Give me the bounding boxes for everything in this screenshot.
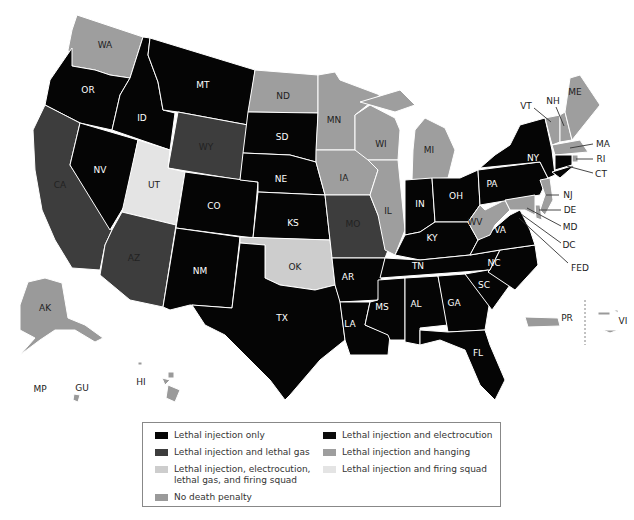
- label-WA: WA: [98, 40, 113, 50]
- label-MA: MA: [596, 139, 611, 149]
- label-TX: TX: [275, 313, 288, 323]
- label-AR: AR: [342, 272, 354, 282]
- legend-label: Lethal injection and firing squad: [342, 464, 487, 475]
- label-LA: LA: [344, 319, 356, 329]
- label-OK: OK: [289, 262, 303, 272]
- legend-item-multiple-methods: Lethal injection, electrocution, lethal …: [155, 464, 310, 486]
- label-VT: VT: [520, 101, 532, 111]
- label-NM: NM: [193, 266, 208, 276]
- label-CA: CA: [54, 180, 67, 190]
- legend-label: Lethal injection and electrocution: [342, 430, 493, 441]
- legend-label: No death penalty: [174, 492, 252, 503]
- label-WV: WV: [467, 217, 483, 227]
- label-MI: MI: [424, 145, 434, 155]
- label-WY: WY: [199, 142, 214, 152]
- swatch-lethal-injection-only: [155, 432, 168, 439]
- legend-item-electrocution: Lethal injection and electrocution: [323, 430, 493, 441]
- label-ND: ND: [276, 91, 290, 101]
- leader-CT: [567, 166, 593, 173]
- legend-item-hanging: Lethal injection and hanging: [323, 447, 470, 458]
- label-SD: SD: [276, 132, 289, 142]
- label-AZ: AZ: [128, 253, 140, 263]
- label-OR: OR: [81, 85, 94, 95]
- state-AK: [20, 278, 103, 355]
- label-FED: FED: [571, 263, 589, 273]
- legend-item-lethal-injection-only: Lethal injection only: [155, 430, 265, 441]
- legend-item-no-death-penalty: No death penalty: [155, 492, 252, 503]
- us-death-penalty-map: WA OR CA ID NV MT WY UT AZ CO NM ND SD N…: [0, 0, 634, 420]
- state-FL: [420, 330, 505, 400]
- state-NJ: [540, 178, 553, 215]
- label-NC: NC: [487, 258, 500, 268]
- swatch-multiple-methods: [155, 466, 168, 473]
- swatch-electrocution: [323, 432, 336, 439]
- state-PR: [525, 317, 560, 327]
- label-MP: MP: [33, 384, 47, 394]
- legend-item-lethal-gas: Lethal injection and lethal gas: [155, 447, 310, 458]
- state-RI: [572, 155, 578, 162]
- label-MD: MD: [563, 222, 578, 232]
- swatch-no-death-penalty: [155, 494, 168, 501]
- swatch-lethal-gas: [155, 449, 168, 456]
- label-GA: GA: [447, 298, 461, 308]
- state-AR: [332, 258, 385, 302]
- label-NH: NH: [546, 96, 560, 106]
- state-WI: [355, 105, 400, 160]
- label-RI: RI: [597, 154, 606, 164]
- label-NE: NE: [275, 174, 288, 184]
- state-ME: [565, 75, 600, 140]
- label-ME: ME: [568, 87, 582, 97]
- swatch-hanging: [323, 449, 336, 456]
- label-VA: VA: [494, 225, 507, 235]
- label-MN: MN: [327, 115, 342, 125]
- label-CT: CT: [595, 169, 607, 179]
- label-IA: IA: [340, 173, 350, 183]
- label-DC: DC: [562, 240, 575, 250]
- label-PR: PR: [561, 313, 573, 323]
- label-HI: HI: [136, 377, 145, 387]
- legend: Lethal injection only Lethal injection a…: [142, 422, 501, 507]
- swatch-firing-squad: [323, 466, 336, 473]
- label-OH: OH: [449, 191, 463, 201]
- label-KS: KS: [287, 218, 299, 228]
- legend-label: Lethal injection and lethal gas: [174, 447, 310, 458]
- label-TN: TN: [411, 261, 424, 271]
- label-MT: MT: [196, 80, 210, 90]
- label-SC: SC: [478, 280, 490, 290]
- label-PA: PA: [486, 179, 498, 189]
- label-CO: CO: [207, 201, 220, 211]
- label-WI: WI: [375, 139, 387, 149]
- label-MS: MS: [375, 302, 389, 312]
- label-AL: AL: [410, 299, 421, 309]
- state-KS: [253, 192, 330, 240]
- label-NV: NV: [94, 165, 108, 175]
- label-IL: IL: [384, 206, 392, 216]
- label-IN: IN: [415, 199, 424, 209]
- label-FL: FL: [473, 348, 483, 358]
- label-GU: GU: [75, 383, 89, 393]
- label-MO: MO: [346, 219, 361, 229]
- legend-label: Lethal injection and hanging: [342, 447, 470, 458]
- legend-item-firing-squad: Lethal injection and firing squad: [323, 464, 487, 475]
- legend-label: Lethal injection, electrocution, lethal …: [174, 464, 310, 486]
- label-ID: ID: [137, 113, 147, 123]
- legend-label: Lethal injection only: [174, 430, 265, 441]
- label-UT: UT: [148, 180, 161, 190]
- label-NY: NY: [527, 153, 540, 163]
- state-VI: [598, 310, 618, 333]
- label-VI: VI: [619, 316, 628, 326]
- state-GU: [73, 394, 80, 402]
- label-KY: KY: [426, 233, 438, 243]
- label-NJ: NJ: [563, 190, 572, 200]
- label-DE: DE: [564, 205, 577, 215]
- label-AK: AK: [39, 303, 52, 313]
